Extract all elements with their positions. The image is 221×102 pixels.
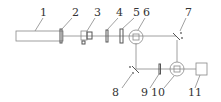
leader-10 xyxy=(164,76,174,88)
mirror-7-dot xyxy=(180,32,182,34)
label-9: 9 xyxy=(141,86,148,99)
component-3-holder xyxy=(81,31,87,40)
component-3-base xyxy=(82,41,85,44)
leader-2 xyxy=(62,18,72,29)
component-3-head xyxy=(87,32,92,39)
leader-4 xyxy=(107,18,118,30)
component-6-cube xyxy=(133,34,139,40)
leader-7 xyxy=(180,18,186,31)
component-7-mirror xyxy=(173,33,180,40)
label-11: 11 xyxy=(188,86,202,99)
mirror-8-dot xyxy=(129,66,131,68)
leader-6 xyxy=(138,18,145,30)
label-3: 3 xyxy=(94,6,101,19)
label-5: 5 xyxy=(133,6,140,19)
component-8-mirror xyxy=(132,66,139,73)
label-7: 7 xyxy=(185,6,192,19)
label-8: 8 xyxy=(112,86,119,99)
label-2: 2 xyxy=(72,6,79,19)
mirror-7-dot xyxy=(181,37,183,39)
leader-5 xyxy=(122,18,134,29)
leader-8 xyxy=(122,74,132,88)
component-6-splitter xyxy=(129,30,143,44)
label-4: 4 xyxy=(116,6,123,19)
optical-setup-diagram: 1 2 3 4 5 6 7 8 9 10 11 xyxy=(0,0,221,102)
leader-1 xyxy=(35,18,43,31)
leader-3 xyxy=(87,18,95,31)
mirror-8-dot xyxy=(132,72,134,74)
label-6: 6 xyxy=(143,6,150,19)
component-11-detector xyxy=(196,63,207,75)
label-10: 10 xyxy=(151,86,165,99)
label-1: 1 xyxy=(40,6,47,19)
component-1-source xyxy=(16,31,63,41)
